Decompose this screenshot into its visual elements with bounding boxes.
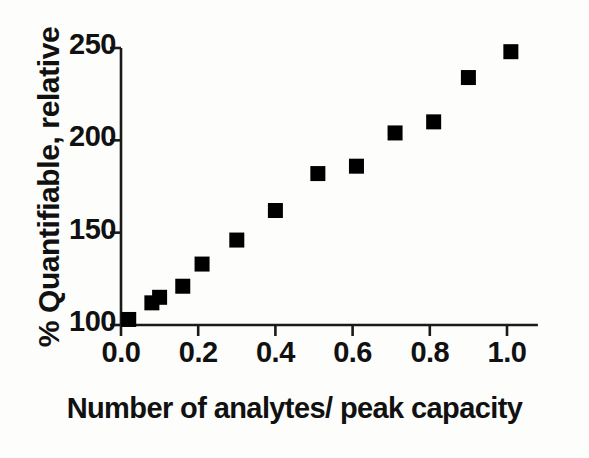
x-axis-tick-labels: 0.00.20.40.60.81.0 bbox=[0, 336, 589, 376]
x-axis-tick-label: 1.0 bbox=[467, 336, 547, 369]
data-points bbox=[121, 44, 518, 327]
x-axis-tick-label: 0.2 bbox=[158, 336, 238, 369]
x-axis-tick-label: 0.4 bbox=[235, 336, 315, 369]
x-axis-tick-label: 0.0 bbox=[81, 336, 161, 369]
axes bbox=[110, 48, 538, 336]
x-axis-title: Number of analytes/ peak capacity bbox=[0, 392, 589, 425]
chart-figure: 100150200250 0.00.20.40.60.81.0 % Quanti… bbox=[0, 0, 589, 458]
data-point-marker bbox=[503, 44, 518, 59]
y-axis-title: % Quantifiable, relative bbox=[32, 12, 66, 362]
data-point-marker bbox=[310, 166, 325, 181]
data-point-marker bbox=[229, 233, 244, 248]
data-point-marker bbox=[195, 257, 210, 272]
data-point-marker bbox=[426, 114, 441, 129]
data-point-marker bbox=[349, 159, 364, 174]
data-point-marker bbox=[121, 312, 136, 327]
data-point-marker bbox=[175, 279, 190, 294]
data-point-marker bbox=[268, 203, 283, 218]
data-point-marker bbox=[152, 290, 167, 305]
data-point-marker bbox=[388, 125, 403, 140]
data-point-marker bbox=[461, 70, 476, 85]
x-axis-tick-label: 0.8 bbox=[390, 336, 470, 369]
x-axis-tick-label: 0.6 bbox=[313, 336, 393, 369]
